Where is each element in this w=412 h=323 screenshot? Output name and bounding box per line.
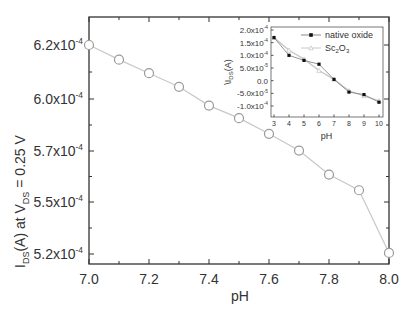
inset-x-tick-label: 10	[375, 120, 383, 127]
ylabel-post: = 0.25 V	[12, 135, 28, 191]
filled-square-marker	[287, 54, 290, 57]
open-circle-marker	[385, 248, 394, 257]
filled-square-marker	[347, 90, 350, 93]
open-circle-marker	[325, 170, 334, 179]
y-tick-label: 5.7x10-4	[34, 142, 84, 159]
x-tick-label: 7.6	[259, 271, 279, 287]
inset-y-axis-label: \IDS(A)	[223, 59, 234, 84]
x-tick-label: 8.0	[379, 271, 399, 287]
open-circle-marker	[205, 101, 214, 110]
x-tick-label: 7.0	[79, 271, 99, 287]
inset-x-tick-label: 8	[347, 120, 351, 127]
y-tick-label: 6.2x10-4	[34, 36, 84, 53]
filled-square-marker	[272, 36, 275, 39]
ylabel-mid: (A) at V	[12, 204, 28, 251]
open-circle-marker	[295, 146, 304, 155]
inset-y-tick-label: -1.0x10-4	[237, 101, 268, 111]
inset-y-tick-label: 1.5x10-4	[240, 38, 269, 48]
y-tick-label: 5.5x10-4	[34, 193, 84, 210]
open-circle-marker	[355, 186, 364, 195]
inset-x-tick-label: 4	[287, 120, 291, 127]
ylabel-pre: I	[12, 264, 28, 268]
x-tick-label: 7.8	[319, 271, 339, 287]
y-tick-label: 6.0x10-4	[34, 90, 84, 107]
inset-y-tick-label: 0.0	[257, 77, 269, 86]
inset-y-tick-label: 5.0x10-5	[240, 63, 269, 73]
open-circle-marker	[145, 69, 154, 78]
figure: 7.07.27.47.67.88.06.2x10-46.0x10-45.7x10…	[0, 0, 412, 323]
filled-square-marker	[362, 93, 365, 96]
inset-y-tick-label: -5.0x10-5	[237, 89, 268, 99]
ylabel-sub1: DS	[21, 252, 31, 265]
ylabel-sub2: DS	[21, 192, 31, 205]
open-circle-marker	[235, 114, 244, 123]
filled-square-marker	[332, 78, 335, 81]
filled-square-marker	[302, 59, 305, 62]
inset-x-tick-label: 7	[332, 120, 336, 127]
inset-x-tick-label: 3	[272, 120, 276, 127]
open-circle-marker	[115, 55, 124, 64]
filled-square-marker	[317, 63, 320, 66]
filled-square-marker	[377, 101, 380, 104]
inset-y-tick-label: 2.0x10-4	[240, 25, 269, 35]
inset-x-tick-label: 5	[302, 120, 306, 127]
main-y-axis-label: IDS(A) at VDS = 0.25 V	[12, 135, 31, 268]
legend-label-native-oxide: native oxide	[325, 30, 373, 40]
y-tick-label: 5.2x10-4	[34, 245, 84, 262]
inset-plot: 345678910pH2.0x10-41.5x10-41.0x10-45.0x1…	[223, 25, 383, 141]
inset-x-axis-label: pH	[321, 131, 333, 141]
open-circle-marker	[85, 41, 94, 50]
x-tick-label: 7.4	[199, 271, 219, 287]
legend-marker-native-oxide	[309, 33, 313, 37]
open-circle-marker	[175, 82, 184, 91]
main-x-axis-label: pH	[0, 288, 390, 304]
open-circle-marker	[265, 129, 274, 138]
inset-x-tick-label: 9	[362, 120, 366, 127]
inset-x-tick-label: 6	[317, 120, 321, 127]
x-tick-label: 7.2	[139, 271, 159, 287]
inset-y-tick-label: 1.0x10-4	[240, 51, 269, 61]
